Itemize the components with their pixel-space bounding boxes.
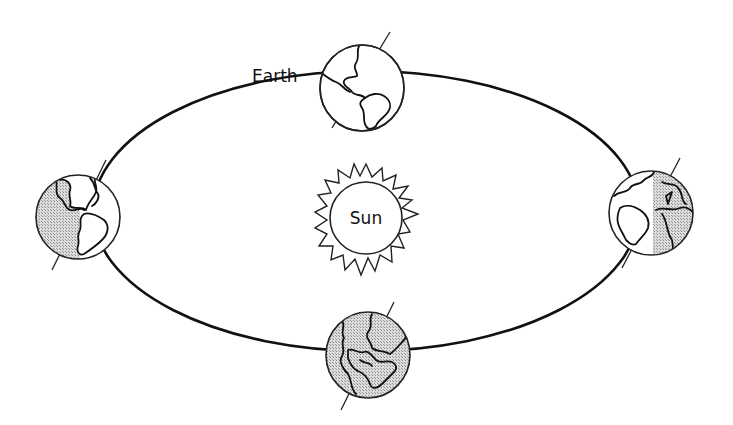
sun: Sun	[315, 164, 418, 275]
earth-right	[609, 158, 698, 268]
sun-label: Sun	[350, 208, 382, 228]
earth-label: Earth	[252, 66, 298, 86]
earth-bottom	[326, 302, 410, 410]
earth-top	[320, 32, 404, 131]
orbit-diagram: Sun Earth	[0, 0, 733, 425]
